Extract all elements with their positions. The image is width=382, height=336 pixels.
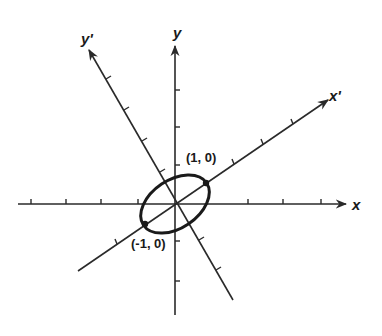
point-label: (1, 0) <box>186 150 216 165</box>
x-prime-axis: x' <box>78 87 341 271</box>
point-positive-one: (1, 0) <box>186 150 216 186</box>
x-prime-axis-label: x' <box>328 87 341 104</box>
x-axis: x <box>18 196 361 213</box>
point-dot <box>142 221 148 227</box>
point-label: (-1, 0) <box>131 236 166 251</box>
y-axis: y <box>172 24 182 315</box>
y-prime-axis: y' <box>80 30 233 300</box>
y-axis-label: y <box>172 24 182 41</box>
rotated-axes-ellipse-diagram: x y y' x <box>0 0 382 336</box>
x-axis-label: x <box>351 196 361 213</box>
point-dot <box>203 180 209 186</box>
y-prime-axis-label: y' <box>80 30 93 47</box>
point-negative-one: (-1, 0) <box>131 221 166 251</box>
